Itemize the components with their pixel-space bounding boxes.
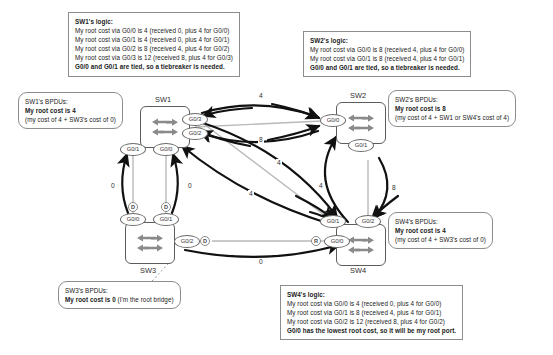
cost-sw1-sw2-bottom: 8 [258,136,264,144]
cost-sw2-sw4-right: 8 [391,184,397,192]
role-sw4-g0-0-root: R [311,236,321,246]
port-sw1-g0-2[interactable]: G0/2 [182,127,208,140]
port-sw3-g0-0[interactable]: G0/0 [120,213,146,226]
switch-label-sw2: SW2 [350,91,366,100]
cost-sw1-sw2-top: 4 [258,92,264,100]
cost-sw3-sw4: 0 [258,258,264,266]
port-sw4-g0-0[interactable]: G0/0 [324,235,350,248]
port-sw2-g0-1[interactable]: G0/1 [348,139,374,152]
switch-sw3[interactable] [125,222,175,264]
port-sw3-g0-1[interactable]: G0/1 [153,213,179,226]
port-sw1-g0-1[interactable]: G0/1 [120,143,146,156]
switch-icon [141,107,189,147]
switch-sw1[interactable] [140,106,190,148]
port-sw2-g0-0[interactable]: G0/0 [320,114,346,127]
port-sw1-g0-3[interactable]: G0/3 [182,113,208,126]
port-sw1-g0-0[interactable]: G0/0 [153,143,179,156]
cost-sw2-sw4-left: 4 [318,182,324,190]
port-sw4-g0-2[interactable]: G0/2 [355,215,381,228]
port-sw4-g0-1[interactable]: G0/1 [320,215,346,228]
switch-icon [126,223,174,263]
role-sw3-g0-0-designated: D [128,202,138,212]
diagram-canvas: SW1's logic: My root cost via G0/0 is 4 … [0,0,553,355]
role-sw3-g0-1-designated: D [161,202,171,212]
switch-label-sw1: SW1 [155,95,171,104]
cost-sw1-sw3-left: 0 [110,182,116,190]
cost-sw1-sw4-upper: 4 [276,159,282,167]
switch-label-sw3: SW3 [140,266,156,275]
port-sw3-g0-2[interactable]: G0/2 [174,235,200,248]
switch-label-sw4: SW4 [350,266,366,275]
callout-leaders [0,0,553,355]
cost-sw1-sw4-lower: 4 [248,190,254,198]
cost-sw1-sw3-right: 0 [187,182,193,190]
role-sw3-g0-2-designated: D [200,236,210,246]
